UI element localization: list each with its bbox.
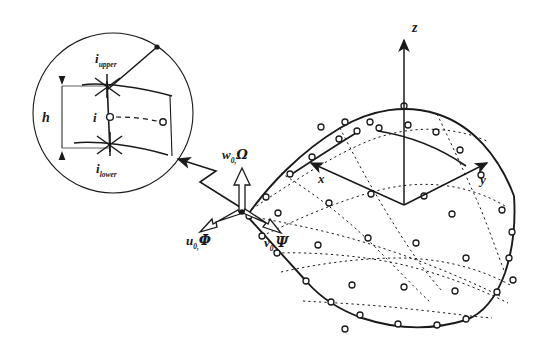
mesh-node: [463, 316, 469, 322]
mesh-node: [510, 277, 516, 283]
axis-x-label: x: [317, 171, 325, 186]
mesh-node: [357, 312, 363, 318]
axis-y-line: [404, 163, 487, 205]
mesh-node: [434, 322, 440, 328]
mesh-node: [368, 191, 374, 197]
mesh-lines-family-u: [247, 114, 508, 303]
shell-surface-group: [246, 103, 516, 332]
detail-circle-group: iupper i ilower h: [33, 33, 193, 193]
mid-surface-node-neighbour: [160, 119, 166, 125]
mesh-ridge-right: [378, 131, 466, 166]
axis-y-label: y: [478, 172, 486, 187]
mesh-node: [328, 299, 334, 305]
mid-surface-node-i: [107, 114, 114, 121]
mesh-node: [342, 326, 348, 332]
label-u0-phi: u0,Φ: [186, 232, 211, 251]
mesh-node: [342, 119, 348, 125]
dof-triad-group: [200, 168, 281, 233]
label-i-lower: ilower: [96, 161, 117, 179]
mesh-node: [275, 210, 281, 216]
label-w0-omega: w0,Ω: [222, 147, 248, 165]
mesh-node: [401, 284, 407, 290]
mesh-node: [449, 211, 455, 217]
thickness-arrow-top: [59, 76, 66, 85]
mesh-node: [413, 240, 419, 246]
label-thickness-h: h: [42, 110, 50, 125]
mesh-node: [354, 128, 360, 134]
dof-arrow-w: [234, 168, 250, 213]
slanted-director-line: [107, 47, 157, 90]
mesh-node: [336, 136, 342, 142]
mesh-node: [303, 278, 309, 284]
mesh-node: [463, 255, 469, 261]
mesh-node: [405, 122, 411, 128]
label-v0-psi: v0,Ψ: [264, 234, 289, 253]
mesh-node: [367, 119, 373, 125]
global-axes-group: z x y: [311, 20, 487, 205]
mesh-node: [499, 207, 505, 213]
mesh-node: [349, 282, 355, 288]
figure-canvas: iupper i ilower h: [0, 0, 543, 347]
mesh-node: [457, 147, 463, 153]
mesh-node: [506, 255, 512, 261]
mesh-node: [365, 235, 371, 241]
dof-arrow-u: [200, 210, 240, 232]
mesh-node: [433, 129, 439, 135]
dof-triad-origin-node: [239, 209, 245, 215]
label-i-upper: iupper: [95, 51, 117, 69]
mesh-node: [263, 194, 269, 200]
mesh-node: [509, 229, 515, 235]
axis-z-label: z: [411, 20, 418, 35]
detail-leader-zigzag: [178, 159, 243, 209]
axis-x-line: [311, 163, 404, 205]
leader-zigzag-line: [178, 159, 243, 209]
mesh-node: [452, 288, 458, 294]
slanted-director-endpoint: [154, 44, 159, 49]
mesh-node: [315, 242, 321, 248]
mesh-node: [326, 200, 332, 206]
mesh-node: [395, 321, 401, 327]
mesh-node: [318, 124, 324, 130]
shell-element-figure: iupper i ilower h: [0, 0, 543, 347]
mesh-node: [287, 171, 293, 177]
mesh-node: [494, 289, 500, 295]
mesh-node: [309, 154, 315, 160]
label-i-mid: i: [93, 110, 97, 125]
mesh-node: [376, 125, 382, 131]
thickness-arrow-bottom: [59, 151, 66, 160]
neighbour-director-line: [170, 96, 172, 156]
